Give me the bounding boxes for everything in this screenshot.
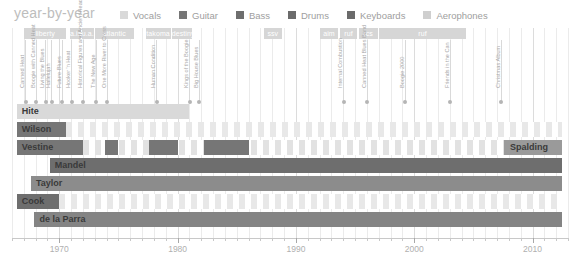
- album-title: Boogie 2000: [399, 57, 405, 88]
- axis-tick: [95, 238, 96, 241]
- legend-item-aerophones[interactable]: Aerophones: [423, 10, 487, 21]
- chart-header: year-by-year VocalsGuitarBassDrumsKeyboa…: [0, 0, 581, 26]
- activity-bar[interactable]: [105, 140, 118, 155]
- axis-tick: [414, 238, 415, 243]
- axis-tick: [521, 238, 522, 241]
- axis-tick: [402, 238, 403, 241]
- axis-tick: [59, 238, 60, 243]
- activity-bar[interactable]: [50, 158, 562, 173]
- album-stem: [83, 40, 84, 102]
- legend-swatch-icon: [347, 11, 355, 19]
- axis-tick: [249, 238, 250, 241]
- album-title: Internal Combustion: [337, 38, 343, 88]
- record-label-chip[interactable]: aim: [320, 28, 339, 39]
- member-row[interactable]: Taylor: [12, 176, 568, 191]
- album-stem: [96, 40, 97, 102]
- legend-swatch-icon: [120, 11, 128, 19]
- member-row[interactable]: Hite: [12, 104, 568, 119]
- axis-tick: [544, 238, 545, 241]
- gridline: [568, 28, 569, 238]
- record-label-chip[interactable]: u.a.: [82, 28, 94, 39]
- member-row[interactable]: Mandel: [12, 158, 568, 173]
- activity-bar[interactable]: [31, 176, 562, 191]
- album-title: Christmas Album: [495, 46, 501, 88]
- legend-label: Guitar: [192, 10, 218, 21]
- axis-tick: [272, 238, 273, 241]
- album-marker[interactable]: Historical Figures and Ancient Heads: [83, 40, 84, 102]
- album-title: Boogie with Canned Heat: [30, 25, 36, 88]
- axis-tick: [71, 238, 72, 241]
- legend-item-bass[interactable]: Bass: [236, 10, 270, 21]
- member-row[interactable]: Wilson: [12, 122, 568, 137]
- album-marker[interactable]: Friends in the Can: [450, 40, 451, 102]
- album-markers: Canned HeatBoogie with Canned HeatLiving…: [12, 40, 568, 102]
- member-name: Spalding: [505, 140, 553, 155]
- legend-label: Vocals: [133, 10, 161, 21]
- axis-tick-label: 2000: [405, 244, 424, 254]
- axis-tick: [178, 238, 179, 243]
- member-row[interactable]: de la Parra: [12, 212, 568, 227]
- legend-label: Keyboards: [360, 10, 405, 21]
- album-stem: [25, 40, 26, 102]
- album-marker[interactable]: Human Condition: [156, 40, 157, 102]
- axis-tick: [237, 238, 238, 241]
- x-axis: 19701980199020002010: [12, 238, 568, 262]
- legend-label: Bass: [249, 10, 270, 21]
- album-marker[interactable]: The New Age: [96, 40, 97, 102]
- album-title: Friends in the Can: [444, 42, 450, 88]
- activity-bar[interactable]: [34, 212, 562, 227]
- axis-tick: [47, 238, 48, 241]
- album-marker[interactable]: Internal Combustion: [343, 40, 344, 102]
- member-row[interactable]: VestineSpalding: [12, 140, 568, 155]
- record-label-chip[interactable]: takoma: [146, 28, 171, 39]
- album-marker[interactable]: Boogie with Canned Heat: [36, 40, 37, 102]
- album-marker[interactable]: One More River to Cross: [107, 40, 108, 102]
- axis-tick: [142, 238, 143, 241]
- activity-bar[interactable]: [149, 140, 177, 155]
- legend-item-keyboards[interactable]: Keyboards: [347, 10, 405, 21]
- record-label-chip[interactable]: ssv: [264, 28, 282, 39]
- album-marker[interactable]: Kings of the Boogie: [189, 40, 190, 102]
- album-title: Hallelujah: [45, 63, 51, 88]
- inactive-stripes: [59, 194, 562, 209]
- album-title: Human Condition: [150, 45, 156, 88]
- member-row[interactable]: Cook: [12, 194, 568, 209]
- album-stem: [367, 40, 368, 102]
- axis-tick: [391, 238, 392, 241]
- album-marker[interactable]: Future Blues: [62, 40, 63, 102]
- axis-tick: [36, 238, 37, 241]
- album-marker[interactable]: Boogie 2000: [405, 40, 406, 102]
- legend-swatch-icon: [179, 11, 187, 19]
- axis-tick: [130, 238, 131, 241]
- axis-tick: [485, 238, 486, 241]
- axis-tick-label: 1980: [168, 244, 187, 254]
- member-name: de la Parra: [34, 212, 90, 227]
- record-label-band: libertya.ia.u.a.atlantictakomadestinyssv…: [12, 28, 568, 39]
- album-marker[interactable]: Canned Heat: [25, 40, 26, 102]
- axis-tick: [284, 238, 285, 241]
- axis-tick: [260, 238, 261, 241]
- album-marker[interactable]: Christmas Album: [501, 40, 502, 102]
- axis-tick-label: 1970: [50, 244, 69, 254]
- member-rows: HiteWilsonVestineSpaldingMandelTaylorCoo…: [12, 104, 568, 230]
- axis-tick: [355, 238, 356, 241]
- legend-item-vocals[interactable]: Vocals: [120, 10, 161, 21]
- album-marker[interactable]: Hallelujah: [51, 40, 52, 102]
- album-title: Kings of the Boogie: [183, 39, 189, 88]
- axis-tick: [296, 238, 297, 243]
- axis-tick: [533, 238, 534, 243]
- axis-tick: [83, 238, 84, 241]
- album-marker[interactable]: Canned Heat Blues Band: [367, 40, 368, 102]
- album-title: Canned Heat Blues Band: [361, 25, 367, 88]
- record-label-chip[interactable]: destiny: [172, 28, 192, 39]
- axis-tick: [556, 238, 557, 241]
- legend-item-guitar[interactable]: Guitar: [179, 10, 218, 21]
- album-marker[interactable]: Big House Blues: [199, 40, 200, 102]
- activity-bar[interactable]: [204, 140, 249, 155]
- album-title: Future Blues: [56, 56, 62, 88]
- legend-item-drums[interactable]: Drums: [288, 10, 329, 21]
- album-stem: [156, 40, 157, 102]
- album-marker[interactable]: Hooker 'n Heat: [71, 40, 72, 102]
- record-label-chip[interactable]: ruf: [379, 28, 467, 39]
- album-stem: [199, 40, 200, 102]
